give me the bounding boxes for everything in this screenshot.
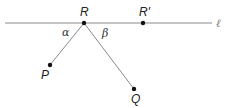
label-r-prime: R′: [139, 5, 151, 19]
angle-beta-label: β: [101, 27, 108, 40]
label-p: P: [41, 68, 49, 82]
point-r: [82, 21, 86, 25]
label-r: R: [80, 5, 89, 19]
label-q: Q: [131, 92, 140, 106]
point-r-prime: [141, 21, 145, 25]
segment-rq: [84, 23, 134, 89]
point-p: [48, 63, 52, 67]
line-l-label: ℓ: [216, 17, 221, 30]
angle-alpha-label: α: [62, 26, 70, 39]
point-q: [132, 87, 136, 91]
reflection-diagram: ℓ R R′ P Q α β: [0, 0, 226, 108]
